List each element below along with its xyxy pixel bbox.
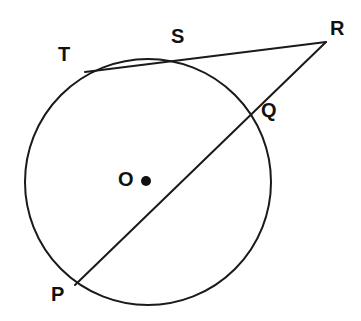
secant-line-pr [75,42,326,285]
point-label-q: Q [261,100,277,120]
point-label-t: T [58,44,70,64]
point-label-o: O [118,169,134,189]
point-label-p: P [51,284,64,304]
geometry-canvas [0,0,361,321]
secant-line-tr [85,42,326,72]
geometry-diagram: T S R Q P O [0,0,361,321]
point-label-s: S [171,26,184,46]
center-dot-icon [141,176,151,186]
point-label-r: R [330,18,344,38]
